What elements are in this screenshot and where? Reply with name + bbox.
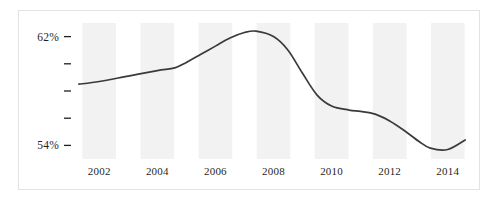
- x-axis-tick-label: 2010: [320, 165, 343, 177]
- x-axis-label-group: 2002200420062008201020122014: [88, 165, 460, 177]
- year-band: [140, 23, 174, 159]
- x-axis-tick-label: 2008: [262, 165, 285, 177]
- year-band: [373, 23, 407, 159]
- chart-card: 62%54% 2002200420062008201020122014: [18, 10, 480, 190]
- x-axis-tick-label: 2014: [436, 165, 459, 177]
- year-band-group: [82, 23, 464, 159]
- year-band: [431, 23, 465, 159]
- x-axis-tick-label: 2002: [88, 165, 111, 177]
- x-axis-tick-label: 2006: [204, 165, 227, 177]
- line-chart: 62%54% 2002200420062008201020122014: [19, 11, 481, 191]
- y-axis-tick-label: 54%: [37, 139, 59, 151]
- year-band: [199, 23, 233, 159]
- year-band: [257, 23, 291, 159]
- x-axis-tick-label: 2004: [146, 165, 169, 177]
- year-band: [82, 23, 116, 159]
- x-axis-tick-label: 2012: [378, 165, 401, 177]
- y-axis-tick-label: 62%: [37, 31, 59, 43]
- year-band: [315, 23, 349, 159]
- y-axis-tick-group: 62%54%: [37, 31, 71, 152]
